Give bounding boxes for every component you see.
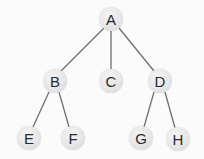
node-f: F (61, 126, 85, 150)
edge-d-g (144, 92, 154, 127)
node-label: G (135, 131, 147, 146)
edge-b-f (59, 92, 69, 127)
edge-a-d (119, 28, 154, 71)
node-label: B (50, 74, 60, 89)
node-label: C (106, 74, 117, 89)
node-g: G (129, 126, 153, 150)
node-e: E (17, 126, 41, 150)
tree-diagram: A B C D E F G H (0, 0, 204, 159)
edge-a-b (60, 28, 104, 72)
node-label: E (24, 131, 34, 146)
node-label: F (68, 131, 77, 146)
node-h: H (166, 127, 190, 151)
node-b: B (43, 69, 67, 93)
node-d: D (148, 69, 172, 93)
node-a: A (99, 7, 123, 31)
node-c: C (99, 69, 123, 93)
node-label: A (106, 12, 116, 27)
node-label: H (173, 132, 184, 147)
node-label: D (155, 74, 166, 89)
edge-d-h (165, 92, 175, 128)
edge-b-e (33, 92, 49, 127)
